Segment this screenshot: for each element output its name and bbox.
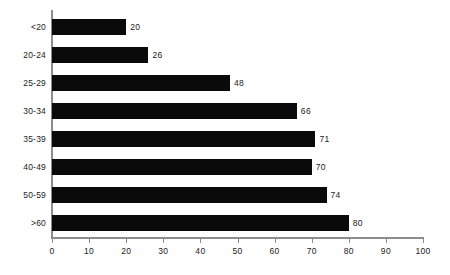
x-axis-tick-label: 90	[381, 246, 391, 256]
bar-chart: <20 20-24 25-29 30-34 35-39 40-49 50-59 …	[0, 0, 450, 275]
bar	[52, 215, 349, 231]
bar	[52, 131, 315, 147]
x-axis-tick-label: 40	[195, 246, 205, 256]
bar	[52, 103, 297, 119]
x-axis-tick-label: 80	[344, 246, 354, 256]
bar-value-label: 20	[130, 22, 140, 32]
x-axis-tick	[163, 239, 164, 243]
x-axis-tick	[89, 239, 90, 243]
x-axis-tick	[126, 239, 127, 243]
x-axis-tick-label: 10	[84, 246, 94, 256]
x-axis-tick-label: 50	[232, 246, 242, 256]
x-axis-tick-label: 20	[121, 246, 131, 256]
bar-value-label: 66	[301, 106, 311, 116]
x-axis-tick	[238, 239, 239, 243]
x-axis-tick-label: 70	[307, 246, 317, 256]
bar-value-label: 74	[331, 190, 341, 200]
bar-value-label: 80	[353, 218, 363, 228]
y-axis-tick-label: 20-24	[0, 47, 46, 63]
x-axis-tick	[312, 239, 313, 243]
x-axis-tick-label: 60	[270, 246, 280, 256]
bar-value-label: 26	[152, 50, 162, 60]
bar	[52, 47, 148, 63]
x-axis-tick-label: 30	[158, 246, 168, 256]
plot-area: <20 20-24 25-29 30-34 35-39 40-49 50-59 …	[0, 0, 450, 275]
y-axis-tick-label: 40-49	[0, 159, 46, 175]
bar	[52, 75, 230, 91]
y-axis-line	[51, 10, 53, 238]
y-axis-tick-label: 25-29	[0, 75, 46, 91]
y-axis-tick-label: <20	[0, 19, 46, 35]
y-axis-tick-label: >60	[0, 215, 46, 231]
bar	[52, 19, 126, 35]
x-axis-tick	[275, 239, 276, 243]
x-axis-tick	[423, 239, 424, 243]
bar-value-label: 71	[319, 134, 329, 144]
bar	[52, 159, 312, 175]
bar	[52, 187, 327, 203]
bar-value-label: 48	[234, 78, 244, 88]
x-axis-tick	[349, 239, 350, 243]
y-axis-tick-label: 30-34	[0, 103, 46, 119]
x-axis-tick-label: 0	[49, 246, 54, 256]
x-axis-tick	[52, 239, 53, 243]
x-axis-tick-label: 100	[415, 246, 430, 256]
x-axis-tick	[200, 239, 201, 243]
x-axis-tick	[386, 239, 387, 243]
y-axis-tick-label: 35-39	[0, 131, 46, 147]
y-axis-tick-label: 50-59	[0, 187, 46, 203]
bar-value-label: 70	[316, 162, 326, 172]
